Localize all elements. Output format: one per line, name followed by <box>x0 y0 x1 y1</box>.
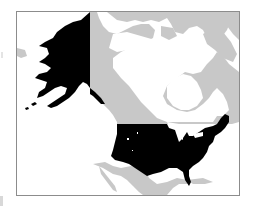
margin-artifact <box>0 196 3 206</box>
margin-artifact <box>1 52 3 58</box>
map-frame <box>16 11 240 196</box>
north-america-map <box>17 12 239 195</box>
